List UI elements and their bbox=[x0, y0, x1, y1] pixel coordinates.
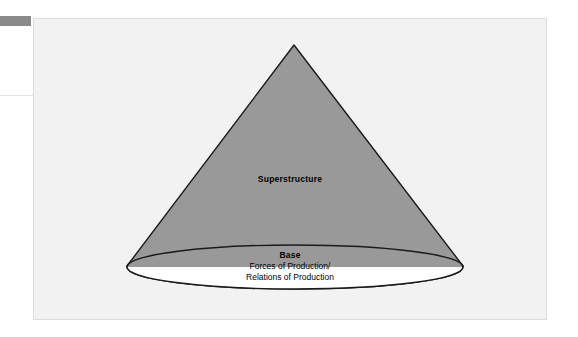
base-label-group: Base Forces of Production/ Relations of … bbox=[34, 250, 546, 282]
page-corner-marker bbox=[0, 16, 31, 26]
base-line-relations: Relations of Production bbox=[34, 272, 546, 282]
figure-panel: Superstructure Base Forces of Production… bbox=[33, 18, 547, 320]
superstructure-label: Superstructure bbox=[34, 174, 546, 184]
base-title: Base bbox=[34, 250, 546, 260]
base-line-forces: Forces of Production/ bbox=[34, 261, 546, 271]
